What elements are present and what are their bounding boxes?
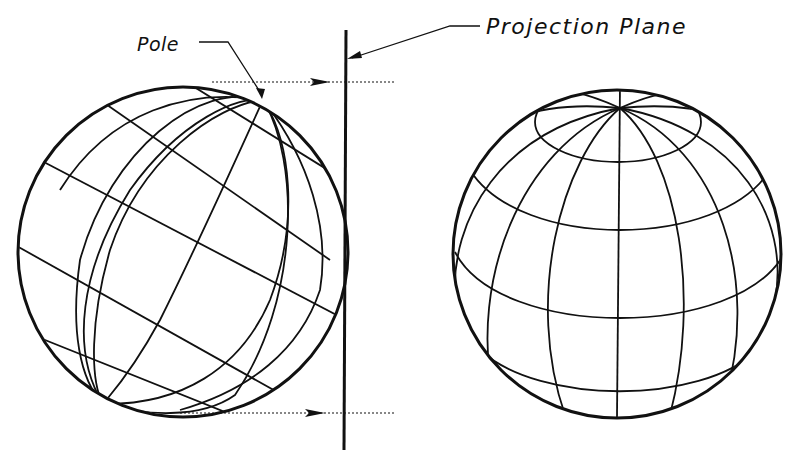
pole-arrowhead	[256, 88, 265, 99]
parallel-line	[535, 82, 701, 162]
meridian-line	[103, 100, 263, 404]
meridian-line	[110, 100, 288, 413]
left-globe	[15, 80, 360, 430]
plane-leader-line	[352, 26, 480, 58]
meridian-line	[548, 108, 620, 415]
meridian-line	[617, 85, 620, 417]
meridian-line	[620, 108, 684, 415]
projection-plane	[344, 26, 480, 450]
projection-plane-line	[344, 30, 346, 450]
parallel-line	[183, 80, 360, 190]
parallel-line	[100, 100, 330, 260]
meridian-line	[103, 100, 288, 404]
meridian-line	[84, 99, 263, 404]
projection-plane-label: Projection Plane	[486, 14, 687, 39]
meridian-line	[94, 100, 263, 404]
pole-label: Pole	[137, 33, 179, 55]
meridian-line	[487, 108, 620, 395]
projection-diagram: Pole Projection Plane	[0, 0, 790, 466]
meridian-line	[180, 100, 323, 410]
plane-arrowhead	[347, 51, 362, 59]
left-globe-outline	[18, 87, 348, 417]
right-globe	[453, 82, 790, 418]
meridian-line	[76, 97, 263, 404]
projection-rays	[180, 78, 395, 417]
pole-leader-line	[199, 42, 262, 95]
diagram-canvas	[0, 0, 790, 466]
